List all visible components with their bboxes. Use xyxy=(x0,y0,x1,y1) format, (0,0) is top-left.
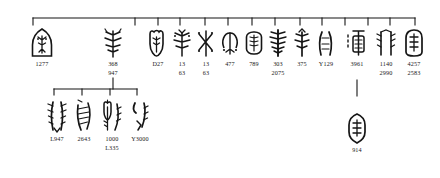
glyph-label-Y3000: Y3000 xyxy=(128,135,152,144)
glyph-node-477[interactable]: 477 xyxy=(219,28,241,69)
glyph-node-789[interactable]: 789 xyxy=(243,28,265,69)
glyph-label-914: 914 xyxy=(345,146,369,155)
glyph-paired-figure-icon xyxy=(374,28,398,58)
glyph-liquid-vessel-icon xyxy=(345,28,369,58)
glyph-stemma-figure: 1277 368 947 D27 xyxy=(0,0,440,178)
glyph-label-375: 375 xyxy=(291,60,313,69)
glyph-node-Y129[interactable]: Y129 xyxy=(315,28,337,69)
glyph-node-3961[interactable]: 3961 xyxy=(345,28,369,69)
glyph-rounded-enclosure-icon xyxy=(402,28,426,58)
glyph-vessel-with-branch-icon xyxy=(100,99,124,133)
glyph-forked-stalk-icon xyxy=(291,28,313,58)
glyph-node-Y3000[interactable]: Y3000 xyxy=(128,99,152,144)
glyph-label-13-63-b: 13 63 xyxy=(195,60,217,78)
glyph-node-303-2075[interactable]: 303 2075 xyxy=(267,28,289,78)
glyph-bell-enclosure-icon xyxy=(29,28,55,58)
glyph-barbed-stalk-icon xyxy=(267,28,289,58)
glyph-vessel-icon xyxy=(147,28,169,58)
glyph-label-1277: 1277 xyxy=(29,60,55,69)
glyph-node-1277[interactable]: 1277 xyxy=(29,28,55,69)
glyph-node-375[interactable]: 375 xyxy=(291,28,313,69)
glyph-label-477: 477 xyxy=(219,60,241,69)
glyph-node-13-63-a[interactable]: 13 63 xyxy=(171,28,193,78)
glyph-label-368-947: 368 947 xyxy=(101,60,125,78)
glyph-hatched-figure-icon xyxy=(72,99,96,133)
glyph-node-L947[interactable]: L947 xyxy=(45,99,69,144)
glyph-open-arch-icon xyxy=(219,28,241,58)
glyph-label-1000-L335: 1000 L335 xyxy=(100,135,124,153)
glyph-node-368-947[interactable]: 368 947 xyxy=(101,28,125,78)
upper-connector-bracket xyxy=(33,18,415,25)
glyph-node-914[interactable]: 914 xyxy=(345,112,369,155)
glyph-twin-branch-icon xyxy=(45,99,69,133)
glyph-shield-enclosure-icon xyxy=(345,112,369,144)
connector-lines xyxy=(0,0,440,178)
glyph-label-1140-2990: 1140 2990 xyxy=(374,60,398,78)
glyph-label-789: 789 xyxy=(243,60,265,69)
glyph-node-4257-2583[interactable]: 4257 2583 xyxy=(402,28,426,78)
glyph-label-D27: D27 xyxy=(147,60,169,69)
glyph-node-1140-2990[interactable]: 1140 2990 xyxy=(374,28,398,78)
glyph-label-2643: 2643 xyxy=(72,135,96,144)
glyph-node-D27[interactable]: D27 xyxy=(147,28,169,69)
lower-connector-bracket xyxy=(54,89,137,95)
glyph-label-Y129: Y129 xyxy=(315,60,337,69)
glyph-node-2643[interactable]: 2643 xyxy=(72,99,96,144)
glyph-node-1000-L335[interactable]: 1000 L335 xyxy=(100,99,124,153)
glyph-label-3961: 3961 xyxy=(345,60,369,69)
vertical-stems xyxy=(113,78,357,96)
glyph-crossed-strokes-icon xyxy=(195,28,217,58)
glyph-hooked-stalk-icon xyxy=(128,99,152,133)
glyph-node-13-63-b[interactable]: 13 63 xyxy=(195,28,217,78)
glyph-boxed-cartouche-icon xyxy=(243,28,265,58)
glyph-label-303-2075: 303 2075 xyxy=(267,60,289,78)
glyph-branching-plant-icon xyxy=(101,28,125,58)
glyph-label-13-63-a: 13 63 xyxy=(171,60,193,78)
glyph-label-4257-2583: 4257 2583 xyxy=(402,60,426,78)
glyph-double-stroke-figure-icon xyxy=(315,28,337,58)
glyph-crested-figure-icon xyxy=(171,28,193,58)
glyph-label-L947: L947 xyxy=(45,135,69,144)
